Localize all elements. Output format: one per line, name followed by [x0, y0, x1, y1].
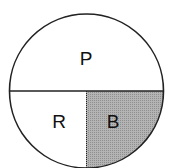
circle-diagram: P R B: [0, 0, 174, 168]
label-r: R: [52, 111, 66, 132]
label-p: P: [80, 48, 93, 69]
label-b: B: [107, 111, 120, 132]
